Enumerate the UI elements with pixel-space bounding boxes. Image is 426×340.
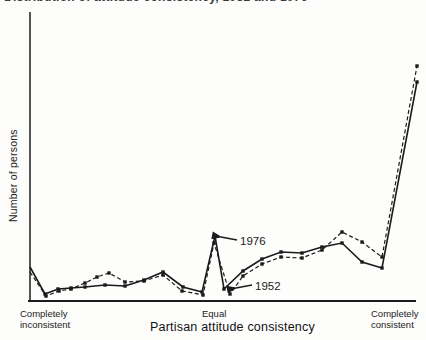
x-tick-completely-consistent: Completely consistent: [371, 309, 419, 330]
svg-text:1952: 1952: [255, 280, 281, 292]
figure: Distribution of attitude consistency, 19…: [0, 0, 426, 340]
x-tick-line: consistent: [371, 320, 419, 331]
x-axis-label: Partisan attitude consistency: [150, 320, 315, 334]
x-tick-completely-inconsistent: Completely inconsistent: [20, 309, 70, 330]
svg-text:1976: 1976: [240, 235, 266, 247]
chart-svg: 19761952: [0, 0, 426, 340]
x-tick-line: Completely: [371, 309, 419, 320]
x-tick-line: inconsistent: [20, 320, 70, 331]
x-tick-equal: Equal: [202, 309, 226, 320]
y-axis-label: Number of persons: [7, 118, 19, 222]
x-tick-line: Completely: [20, 309, 70, 320]
x-tick-line: Equal: [202, 309, 226, 320]
